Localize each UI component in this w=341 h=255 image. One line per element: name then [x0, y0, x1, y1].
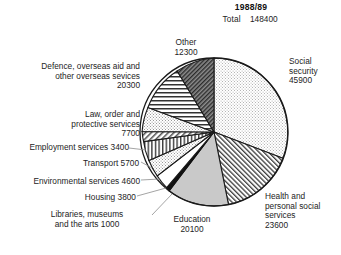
label-environmental: Environmental services 4600 — [0, 177, 140, 187]
leader-libraries — [152, 194, 172, 215]
label-education: Education 20100 — [160, 215, 224, 234]
label-social-security: Social security 45900 — [289, 57, 339, 86]
label-libraries: Libraries, museums and the arts 1000 — [24, 210, 150, 229]
pie-chart-figure: 1988/89 Total148400 — [0, 0, 341, 255]
label-health: Health and personal social services 2360… — [265, 192, 341, 230]
label-defence: Defence, overseas aid and other overseas… — [12, 62, 140, 91]
leader-employment — [129, 148, 146, 150]
label-transport: Transport 5700 — [22, 159, 139, 169]
label-law-order: Law, order and protective services 7700 — [32, 110, 140, 139]
leader-housing — [137, 188, 166, 196]
label-housing: Housing 3800 — [22, 193, 136, 203]
label-employment: Employment services 3400 — [4, 143, 129, 153]
label-other: Other 12300 — [158, 38, 214, 57]
